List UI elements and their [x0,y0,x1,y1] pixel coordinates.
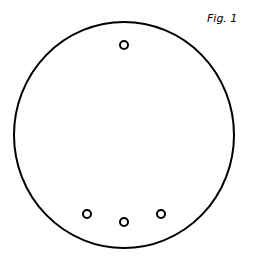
figure: Fig. 1 [0,0,254,259]
small-circles-group [83,41,165,226]
figure-label: Fig. 1 [207,13,237,25]
small-circle-4 [157,210,165,218]
small-circle-2 [83,210,91,218]
small-circle-3 [120,218,128,226]
small-circle-1 [120,41,128,49]
figure-drawing [0,0,254,259]
outer-circle [14,22,234,248]
